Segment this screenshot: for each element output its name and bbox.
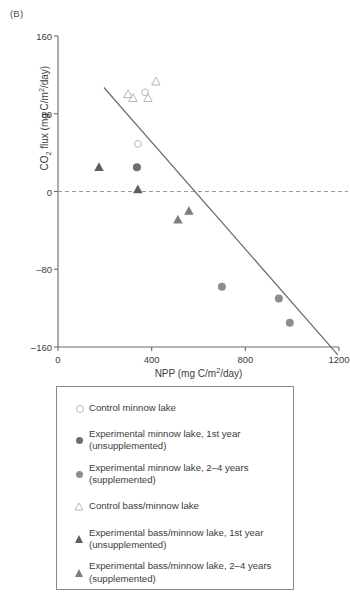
data-point-triangle-filled bbox=[133, 185, 143, 194]
x-tick-label: 400 bbox=[144, 354, 160, 365]
legend-item-label: Experimental minnow lake, 2–4 years (sup… bbox=[89, 462, 248, 487]
y-tick-label: –160 bbox=[10, 342, 52, 353]
data-point-circle-filled bbox=[133, 163, 141, 171]
marker-glyph bbox=[75, 569, 83, 577]
legend-marker-triangle-filled-mid-icon bbox=[69, 566, 89, 580]
data-point-circle-filled bbox=[218, 283, 226, 291]
legend-marker-triangle-open-icon bbox=[69, 500, 89, 514]
x-tick-label: 1200 bbox=[328, 354, 349, 365]
legend-item: Experimental minnow lake, 2–4 years (sup… bbox=[69, 462, 285, 487]
x-axis-title: NPP (mg C/m2/day) bbox=[58, 366, 339, 379]
x-tick-label: 0 bbox=[55, 354, 60, 365]
y-tick-label: –80 bbox=[10, 264, 52, 275]
legend-item: Experimental bass/minnow lake, 2–4 years… bbox=[69, 560, 285, 585]
legend: Control minnow lakeExperimental minnow l… bbox=[56, 386, 294, 590]
legend-item: Experimental bass/minnow lake, 1st year … bbox=[69, 527, 285, 552]
data-point-triangle-filled bbox=[184, 206, 194, 215]
data-point-circle-filled bbox=[275, 294, 283, 302]
data-point-triangle-filled bbox=[94, 162, 104, 171]
legend-item: Control minnow lake bbox=[69, 397, 285, 419]
legend-item: Experimental minnow lake, 1st year (unsu… bbox=[69, 428, 285, 453]
legend-item: Control bass/minnow lake bbox=[69, 496, 285, 518]
scatter-plot: 160800–80–16004008001200 NPP (mg C/m2/da… bbox=[0, 0, 348, 370]
data-point-triangle-filled bbox=[173, 215, 183, 224]
legend-marker-triangle-filled-dark-icon bbox=[69, 532, 89, 546]
legend-marker-circle-open-icon bbox=[69, 401, 89, 415]
regression-line bbox=[104, 88, 338, 355]
marker-glyph bbox=[76, 471, 83, 478]
legend-items: Control minnow lakeExperimental minnow l… bbox=[69, 397, 285, 594]
data-point-triangle-open bbox=[152, 77, 160, 85]
legend-marker-circle-filled-dark-icon bbox=[69, 433, 89, 447]
legend-item-label: Control minnow lake bbox=[89, 402, 176, 414]
marker-glyph bbox=[75, 535, 83, 543]
data-point-circle-filled bbox=[286, 319, 294, 327]
x-tick-label: 800 bbox=[237, 354, 253, 365]
legend-item-label: Experimental minnow lake, 1st year (unsu… bbox=[89, 428, 240, 453]
marker-glyph bbox=[76, 405, 84, 413]
marker-glyph bbox=[76, 437, 83, 444]
legend-item-label: Control bass/minnow lake bbox=[89, 500, 199, 512]
legend-item-label: Experimental bass/minnow lake, 2–4 years… bbox=[89, 560, 271, 585]
legend-marker-circle-filled-mid-icon bbox=[69, 467, 89, 481]
y-axis-title: CO2 flux (mg C/m2/day) bbox=[37, 0, 53, 243]
legend-item-label: Experimental bass/minnow lake, 1st year … bbox=[89, 527, 263, 552]
data-point-circle-open bbox=[134, 140, 141, 147]
